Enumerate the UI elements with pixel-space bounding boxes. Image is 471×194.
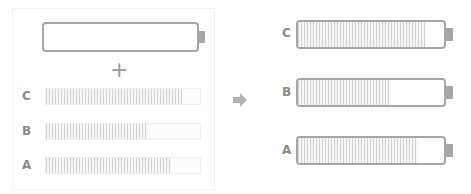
battery-label-a: A <box>282 143 291 157</box>
bar-a-fill <box>46 158 171 173</box>
battery-c <box>296 20 446 49</box>
bar-label-b: B <box>22 124 31 138</box>
battery-a <box>296 136 446 165</box>
battery-b-fill <box>298 80 391 105</box>
battery-label-b: B <box>282 85 291 99</box>
battery-c-fill <box>298 22 426 47</box>
battery-b <box>296 78 446 107</box>
empty-battery <box>42 22 199 52</box>
bar-label-a: A <box>22 158 31 172</box>
right-arrow-icon <box>233 93 247 107</box>
bar-b-fill <box>46 124 148 139</box>
bar-c <box>45 88 201 105</box>
plus-icon: + <box>110 59 126 81</box>
battery-a-cap <box>446 144 453 157</box>
bar-label-c: C <box>22 89 31 103</box>
battery-label-c: C <box>282 26 291 40</box>
battery-b-cap <box>446 86 453 99</box>
bar-c-fill <box>46 89 183 104</box>
bar-b <box>45 123 201 140</box>
battery-c-cap <box>446 28 453 41</box>
empty-battery-cap <box>199 31 205 43</box>
bar-a <box>45 157 201 174</box>
battery-a-fill <box>298 138 418 163</box>
